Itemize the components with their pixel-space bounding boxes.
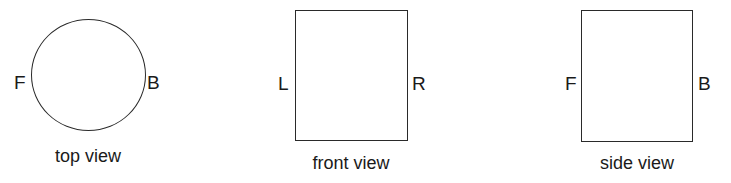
top-view-circle [31,19,146,131]
top-view-left-label: F [14,73,26,92]
top-view-caption: top view [38,146,138,166]
front-view-right-label: R [412,74,426,93]
side-view-left-label: F [565,74,577,93]
top-view-right-label: B [147,73,160,92]
side-view-right-label: B [698,74,711,93]
side-view-rectangle [581,10,693,142]
side-view-caption: side view [582,153,692,173]
front-view-caption: front view [296,153,406,173]
front-view-rectangle [295,10,408,141]
front-view-left-label: L [278,74,289,93]
